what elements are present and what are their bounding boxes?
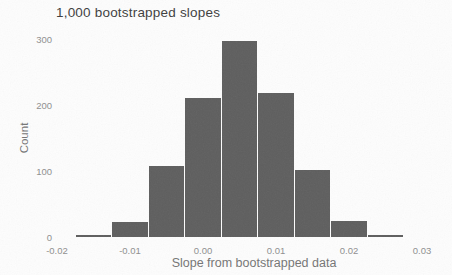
histogram-bar — [295, 170, 330, 237]
histogram-bar — [258, 93, 293, 237]
histogram-bar — [331, 221, 366, 238]
y-axis-label: Count — [18, 123, 30, 154]
x-tick-label: -0.01 — [119, 245, 141, 256]
x-tick-label: 0.01 — [267, 245, 286, 256]
y-tick-label: 300 — [0, 34, 52, 45]
x-tick-label: 0.03 — [413, 245, 432, 256]
x-tick-label: 0.00 — [194, 245, 213, 256]
y-tick-label: 200 — [0, 100, 52, 111]
histogram-bar — [368, 235, 403, 237]
y-tick-label: 100 — [0, 166, 52, 177]
histogram-bar — [222, 41, 257, 237]
x-tick-label: 0.02 — [340, 245, 359, 256]
chart-title: 1,000 bootstrapped slopes — [56, 5, 220, 20]
y-tick-label: 0 — [0, 232, 52, 243]
histogram-bar — [185, 98, 220, 237]
x-tick-label: -0.02 — [46, 245, 68, 256]
histogram-figure: 1,000 bootstrapped slopes Count 01002003… — [0, 0, 452, 275]
histogram-bar — [76, 235, 111, 237]
x-axis-label: Slope from bootstrapped data — [172, 256, 337, 270]
histogram-bar — [149, 166, 184, 237]
histogram-bar — [112, 222, 147, 237]
